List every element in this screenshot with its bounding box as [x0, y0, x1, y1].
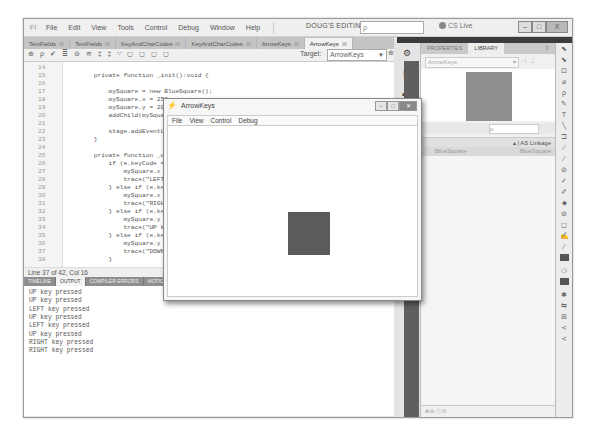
close-button[interactable]: X — [546, 21, 568, 33]
swf-player-window: ⚡ArrowKeys – □ ✕ File View Control Debug — [163, 98, 422, 301]
tab-keyandcharcodes-1[interactable]: KeyAndCharCodes⊠ — [116, 38, 186, 49]
library-panel: PROPERTIES LIBRARY ≡ ArrowKeys▾ ⊣⊥ ρ ▴ |… — [420, 43, 555, 417]
tool-icon[interactable]: ⊞ — [556, 311, 572, 322]
swf-maximize-button[interactable]: □ — [387, 101, 399, 111]
tool-icon[interactable]: ⊐ — [556, 131, 572, 142]
menu-view[interactable]: View — [91, 24, 106, 31]
tool-icon[interactable]: ✎ — [556, 98, 572, 109]
menu-control[interactable]: Control — [145, 24, 168, 31]
tool-icon[interactable]: ✍ — [556, 230, 572, 241]
tool-icon[interactable]: ⬥ — [556, 197, 572, 208]
tool-icon[interactable]: ⊘ — [556, 164, 572, 175]
tool-icon[interactable]: ◻ — [556, 219, 572, 230]
tool-icon[interactable]: ╲ — [556, 120, 572, 131]
color-swatch-icon[interactable] — [560, 254, 569, 261]
tool-icon[interactable]: ⇆ — [556, 300, 572, 311]
symbol-preview — [421, 69, 555, 121]
tool-icon[interactable]: ∕ — [556, 241, 572, 252]
menu-help[interactable]: Help — [246, 24, 260, 31]
menu-tools[interactable]: Tools — [117, 24, 133, 31]
library-pin-buttons[interactable]: ⊣⊥ — [521, 57, 539, 64]
line-number: 34 — [38, 224, 52, 231]
panel-menu-icon[interactable]: ≡ — [545, 45, 549, 51]
script-tool-icons[interactable]: ⊕ ρ ✔ ≣ ⊜ ≋ ‡ ‡ ∵ ◻ ◻ ◻ ◻ — [28, 50, 171, 58]
library-document-select[interactable]: ArrowKeys▾ — [425, 57, 519, 68]
color-swatch-icon[interactable] — [560, 278, 569, 285]
tool-icon[interactable]: ✓ — [556, 175, 572, 186]
menu-edit[interactable]: Edit — [68, 24, 80, 31]
tool-icon[interactable]: ⊘ — [556, 208, 572, 219]
code-text: trace("RIGHT — [64, 200, 168, 207]
swf-minimize-button[interactable]: – — [375, 101, 387, 111]
line-number: 19 — [38, 104, 52, 111]
tool-icon[interactable]: ⚆ — [556, 265, 572, 276]
line-number: 15 — [38, 72, 52, 79]
tab-textfields-2[interactable]: TextFields⊠ — [70, 38, 116, 49]
code-text: if (e.keyCode == — [64, 160, 168, 167]
color-panel-icon[interactable]: ⚙ — [396, 43, 418, 63]
line-number: 22 — [38, 128, 52, 135]
code-text: addChild(mySquare); — [64, 112, 179, 119]
library-search-input[interactable]: ρ — [489, 124, 539, 134]
maximize-button[interactable]: □ — [532, 21, 546, 33]
output-line: LEFT key pressed — [29, 306, 89, 313]
tab-textfields-1[interactable]: TextFields⊠ — [24, 38, 70, 49]
code-text: mySquare.x += — [64, 192, 172, 199]
target-select[interactable]: ArrowKeys▼ — [327, 49, 387, 61]
library-item[interactable]: BlueSquare BlueSquare — [421, 147, 555, 156]
line-number: 23 — [38, 136, 52, 143]
tool-icon[interactable]: ✱ — [556, 289, 572, 300]
tool-icon[interactable]: ⌀ — [556, 76, 572, 87]
tab-library[interactable]: LIBRARY — [468, 43, 503, 54]
tool-icon[interactable] — [556, 254, 572, 265]
tool-icon[interactable]: ≺ — [556, 333, 572, 344]
tab-output[interactable]: OUTPUT — [56, 277, 86, 286]
tool-icon[interactable]: ✐ — [556, 186, 572, 197]
cs-live-button[interactable]: CS Live — [439, 22, 473, 29]
tool-icon[interactable]: ⊡ — [556, 65, 572, 76]
menu-file[interactable]: File — [46, 24, 57, 31]
code-text: mySquare.y += — [64, 240, 172, 247]
tab-arrowkeys-1[interactable]: ArrowKeys⊠ — [257, 38, 305, 49]
library-search-bar: ρ — [421, 123, 555, 134]
help-search-input[interactable]: ρ — [360, 21, 424, 34]
swf-menu-view[interactable]: View — [189, 116, 203, 125]
code-text: mySquare = new BlueSquare(); — [64, 88, 213, 95]
close-tab-icon: ⊠ — [175, 41, 180, 47]
tab-properties[interactable]: PROPERTIES — [421, 43, 468, 54]
tab-keyandcharcodes-2[interactable]: KeyAndCharCodes⊠ — [186, 38, 256, 49]
menu-window[interactable]: Window — [210, 24, 235, 31]
tab-timeline[interactable]: TIMELINE — [24, 277, 56, 286]
tool-icon[interactable]: ⬊ — [556, 54, 572, 65]
pin-script-icon[interactable]: ⊕ — [388, 49, 394, 57]
tool-icon[interactable]: ≺ — [556, 322, 572, 333]
menu-separator — [273, 22, 274, 34]
line-number: 35 — [38, 232, 52, 239]
swf-menu-debug[interactable]: Debug — [238, 116, 257, 125]
tool-icon[interactable]: T — [556, 109, 572, 120]
tab-compiler-errors[interactable]: COMPILER ERRORS — [86, 277, 144, 286]
tool-icon[interactable] — [556, 278, 572, 289]
library-footer-buttons[interactable]: ⊞ ⊟ ⓘ ⊡ — [421, 405, 555, 415]
line-number: 36 — [38, 240, 52, 247]
output-line: RIGHT key pressed — [29, 347, 93, 354]
minimize-button[interactable]: – — [518, 21, 532, 33]
line-number: 37 — [38, 248, 52, 255]
output-line: UP key pressed — [29, 314, 82, 321]
code-text: mySquare.y -= — [64, 216, 172, 223]
swf-menu-file[interactable]: File — [172, 116, 182, 125]
tab-arrowkeys-active[interactable]: ArrowKeys⊠ — [305, 38, 353, 49]
tool-icon[interactable]: ⬉ — [556, 43, 572, 54]
tool-icon[interactable]: ρ — [556, 87, 572, 98]
swf-close-button[interactable]: ✕ — [399, 101, 417, 111]
as-linkage-column[interactable]: ▴ | AS Linkage — [513, 139, 551, 146]
close-tab-icon: ⊠ — [59, 41, 64, 47]
tool-icon[interactable]: ∕ — [556, 153, 572, 164]
flash-logo-icon: Fl — [28, 23, 38, 33]
tool-icon[interactable]: ∕ — [556, 142, 572, 153]
swf-menu-control[interactable]: Control — [210, 116, 231, 125]
swf-stage[interactable] — [167, 125, 418, 297]
blue-square — [288, 212, 330, 255]
output-panel[interactable]: UP key pressedUP key pressedLEFT key pre… — [24, 286, 394, 416]
menu-debug[interactable]: Debug — [178, 24, 199, 31]
